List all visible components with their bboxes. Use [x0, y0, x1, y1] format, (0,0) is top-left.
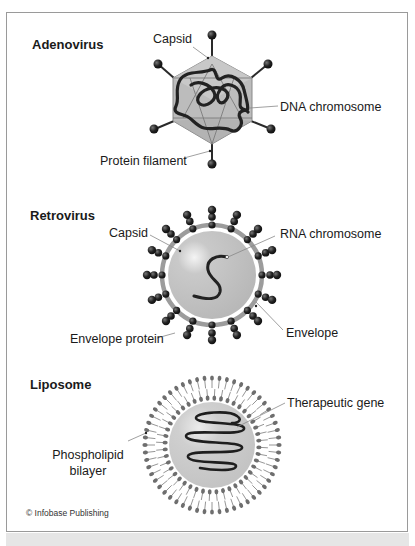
label-envelope-protein: Envelope protein [70, 332, 164, 346]
copyright-credit: © Infobase Publishing [26, 508, 109, 518]
panel-title-adenovirus: Adenovirus [32, 37, 104, 52]
adenovirus-diagram [150, 31, 279, 169]
liposome-core [169, 402, 255, 488]
label-adenovirus-capsid: Capsid [153, 32, 192, 46]
panel-title-retrovirus: Retrovirus [30, 208, 95, 223]
panel-title-liposome: Liposome [30, 377, 91, 392]
label-envelope: Envelope [286, 326, 338, 340]
label-protein-filament: Protein filament [100, 154, 187, 168]
liposome-diagram [128, 375, 285, 515]
label-therapeutic-gene: Therapeutic gene [287, 396, 384, 410]
label-bilayer: bilayer [52, 464, 124, 478]
retrovirus-diagram [143, 206, 283, 344]
label-rna-chromosome: RNA chromosome [280, 227, 381, 241]
label-dna-chromosome: DNA chromosome [280, 100, 381, 114]
label-phospholipid: Phospholipid [52, 448, 124, 462]
label-retrovirus-capsid: Capsid [109, 226, 148, 240]
